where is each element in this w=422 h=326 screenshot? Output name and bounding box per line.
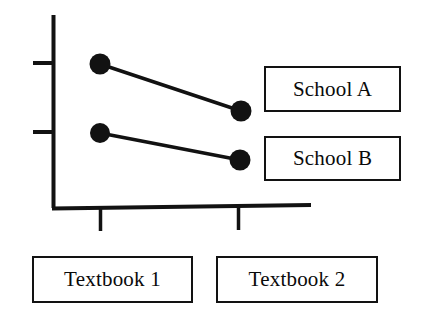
legend-item-school-a: School A [264,66,401,112]
legend-label-school-a: School A [293,79,372,100]
interaction-line-chart: School A School B Textbook 1 Textbook 2 [0,0,422,326]
data-point-school-b-textbook-1 [90,123,110,143]
legend-label-school-b: School B [293,148,372,169]
x-axis-line [52,205,311,209]
x-axis-category-textbook-2: Textbook 2 [216,256,378,303]
x-axis-category-label-textbook-2: Textbook 2 [249,269,346,290]
legend-item-school-b: School B [264,136,401,181]
data-point-school-a-textbook-1 [90,54,111,75]
data-point-school-a-textbook-2 [231,101,252,122]
x-axis-category-textbook-1: Textbook 1 [32,256,193,303]
series-line-school-b [100,133,240,160]
data-point-school-b-textbook-2 [230,150,251,171]
series-line-school-a [100,64,241,111]
x-axis-category-label-textbook-1: Textbook 1 [64,269,161,290]
